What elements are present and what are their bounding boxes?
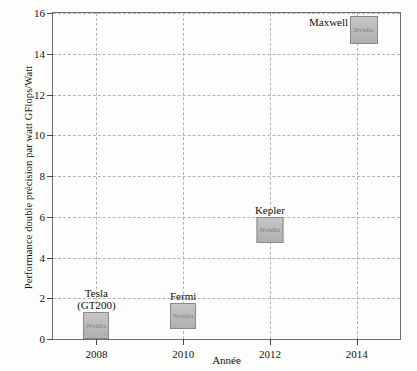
gridline-horizontal [53, 95, 400, 96]
data-label-maxwell: Maxwell [54, 17, 354, 29]
y-tick [47, 135, 53, 136]
y-tick [47, 298, 53, 299]
data-label-kepler-line1: Kepler [235, 205, 305, 217]
y-tick [47, 95, 53, 96]
gridline-horizontal [53, 13, 400, 14]
x-tick [357, 339, 358, 345]
y-tick-label: 6 [40, 211, 46, 223]
y-tick-label: 16 [34, 7, 45, 19]
gridline-vertical [357, 13, 358, 339]
y-tick [47, 339, 53, 340]
y-tick [47, 54, 53, 55]
gridline-vertical [270, 13, 271, 339]
x-tick [270, 339, 271, 345]
y-tick-label: 4 [40, 252, 46, 264]
y-tick [47, 217, 53, 218]
y-tick-label: 10 [34, 129, 45, 141]
data-label-tesla: Tesla (GT200) [56, 287, 136, 312]
y-tick [47, 258, 53, 259]
data-marker-fermi[interactable]: Nvidia [170, 303, 196, 329]
data-label-kepler: Kepler [235, 205, 305, 217]
nvidia-logo-icon: Nvidia [353, 26, 373, 34]
gridline-horizontal [53, 217, 400, 218]
nvidia-logo-icon: Nvidia [260, 226, 280, 234]
gridline-horizontal [53, 54, 400, 55]
y-tick-label: 14 [34, 48, 45, 60]
data-label-tesla-line2: (GT200) [56, 299, 136, 311]
data-marker-tesla[interactable]: Nvidia [83, 312, 109, 339]
gridline-horizontal [53, 176, 400, 177]
x-tick [96, 339, 97, 345]
data-label-maxwell-line1: Maxwell [309, 17, 354, 29]
x-tick [183, 339, 184, 345]
nvidia-logo-icon: Nvidia [173, 312, 193, 320]
data-marker-kepler[interactable]: Nvidia [256, 217, 283, 243]
nvidia-logo-icon: Nvidia [86, 322, 106, 330]
y-tick [47, 176, 53, 177]
plot-area: 0 2 4 6 8 10 12 14 16 2008 2010 2012 201… [52, 12, 401, 340]
gridline-horizontal [53, 135, 400, 136]
chart-figure: Performance double précision par watt GF… [0, 0, 417, 371]
y-tick-label: 12 [34, 89, 45, 101]
y-tick-label: 2 [40, 292, 46, 304]
y-tick [47, 13, 53, 14]
x-axis-title: Année [52, 354, 401, 366]
y-axis-title: Performance double précision par watt GF… [23, 28, 34, 328]
data-label-fermi: Fermi [148, 291, 218, 303]
gridline-horizontal [53, 258, 400, 259]
y-tick-label: 8 [40, 170, 46, 182]
y-tick-label: 0 [40, 333, 46, 345]
data-label-tesla-line1: Tesla [56, 287, 136, 299]
data-label-fermi-line1: Fermi [148, 291, 218, 303]
